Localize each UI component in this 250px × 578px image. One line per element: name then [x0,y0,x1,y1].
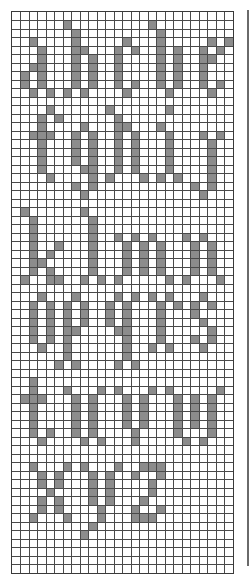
grid-line-horizontal [12,156,233,157]
grid-line-horizontal [12,301,233,302]
grid-line-horizontal [12,539,233,540]
grid-line-horizontal [12,199,233,200]
grid-line-horizontal [12,182,233,183]
grid-line-horizontal [12,267,233,268]
grid-line-horizontal [12,403,233,404]
grid-line-horizontal [12,105,233,106]
grid-line-horizontal [12,352,233,353]
grid-line-horizontal [12,428,233,429]
grid-line-horizontal [12,513,233,514]
grid-line-horizontal [12,88,233,89]
grid-line-horizontal [12,63,233,64]
grid-line-horizontal [12,114,233,115]
grid-line-horizontal [12,284,233,285]
grid-line-horizontal [12,29,233,30]
grid-line-horizontal [12,522,233,523]
grid-line-horizontal [12,250,233,251]
grid-line-horizontal [12,318,233,319]
grid-line-horizontal [12,377,233,378]
grid-line-horizontal [12,80,233,81]
grid-line-horizontal [12,37,233,38]
grid-line-horizontal [12,343,233,344]
grid-line-horizontal [12,386,233,387]
grid-line-horizontal [12,547,233,548]
grid-line-horizontal [12,496,233,497]
grid-line-horizontal [12,505,233,506]
grid-line-horizontal [12,360,233,361]
grid-line-horizontal [12,233,233,234]
grid-line-horizontal [12,420,233,421]
grid-line-horizontal [12,46,233,47]
grid-line-horizontal [12,20,233,21]
grid-line-horizontal [12,556,233,557]
grid-line-horizontal [12,335,233,336]
grid-line-horizontal [12,326,233,327]
grid-line-horizontal [12,190,233,191]
grid-line-horizontal [12,165,233,166]
grid-line-horizontal [12,309,233,310]
grid-line-horizontal [12,369,233,370]
grid-line-horizontal [12,258,233,259]
grid-line-horizontal [12,479,233,480]
grid-line-horizontal [12,148,233,149]
grid-line-horizontal [12,411,233,412]
grid-line-horizontal [12,207,233,208]
page-edge-line [247,10,249,566]
grid-line-horizontal [12,454,233,455]
grid-line-horizontal [12,292,233,293]
grid-line-horizontal [12,216,233,217]
grid-line-horizontal [12,471,233,472]
grid-line-horizontal [12,122,233,123]
grid-line-horizontal [12,445,233,446]
grid-line-horizontal [12,241,233,242]
grid-line-horizontal [12,530,233,531]
grid-line-horizontal [12,139,233,140]
grid-line-horizontal [12,275,233,276]
grid-line-horizontal [12,394,233,395]
stitch-chart-grid [11,11,234,574]
grid-line-horizontal [12,54,233,55]
grid-line-horizontal [12,488,233,489]
grid-line-horizontal [12,564,233,565]
grid-line-horizontal [12,97,233,98]
grid-line-horizontal [12,71,233,72]
grid-line-horizontal [12,131,233,132]
grid-line-horizontal [12,173,233,174]
grid-line-horizontal [12,437,233,438]
grid-line-horizontal [12,224,233,225]
grid-line-horizontal [12,462,233,463]
